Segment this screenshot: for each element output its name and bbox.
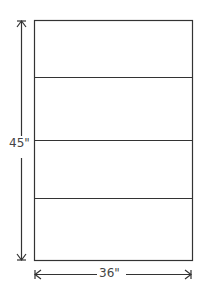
height-label: 45" xyxy=(9,136,30,150)
panel-diagram xyxy=(0,0,207,299)
width-label: 36" xyxy=(99,266,120,280)
